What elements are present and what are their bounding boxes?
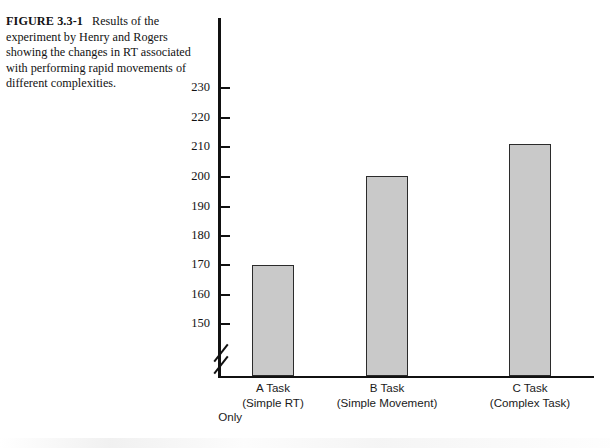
y-tick-170 xyxy=(221,264,230,266)
y-tick-label-180: 180 xyxy=(174,228,210,243)
category-label-a-line3: Only xyxy=(218,410,304,425)
category-label-a: A Task (Simple RT) Only xyxy=(242,381,304,425)
y-tick-label-200: 200 xyxy=(174,169,210,184)
y-tick-label-170: 170 xyxy=(174,257,210,272)
y-tick-150 xyxy=(221,323,230,325)
category-label-a-line1: A Task xyxy=(242,381,304,396)
y-tick-190 xyxy=(221,206,230,208)
y-tick-label-150: 150 xyxy=(174,316,210,331)
y-tick-label-190: 190 xyxy=(174,199,210,214)
category-label-a-line2: (Simple RT) xyxy=(242,396,304,411)
x-axis xyxy=(218,376,594,378)
category-label-c: C Task (Complex Task) xyxy=(490,381,570,410)
category-label-c-line2: (Complex Task) xyxy=(490,396,570,411)
y-tick-220 xyxy=(221,117,230,119)
bar-chart: 230 220 210 200 190 180 170 160 150 A Ta… xyxy=(0,0,610,448)
bar-c-task xyxy=(509,144,551,376)
category-label-c-line1: C Task xyxy=(490,381,570,396)
y-tick-160 xyxy=(221,294,230,296)
scan-artifact xyxy=(0,438,610,448)
y-tick-230 xyxy=(221,87,230,89)
y-tick-label-210: 210 xyxy=(174,139,210,154)
y-tick-label-160: 160 xyxy=(174,287,210,302)
y-tick-210 xyxy=(221,146,230,148)
y-tick-180 xyxy=(221,235,230,237)
category-label-b: B Task (Simple Movement) xyxy=(337,381,438,410)
bar-b-task xyxy=(366,176,408,376)
bar-a-task xyxy=(252,265,294,376)
y-tick-200 xyxy=(221,176,230,178)
category-label-b-line1: B Task xyxy=(337,381,438,396)
plot-area: 230 220 210 200 190 180 170 160 150 A Ta… xyxy=(218,18,594,378)
y-tick-label-230: 230 xyxy=(174,80,210,95)
category-label-b-line2: (Simple Movement) xyxy=(337,396,438,411)
y-tick-label-220: 220 xyxy=(174,110,210,125)
